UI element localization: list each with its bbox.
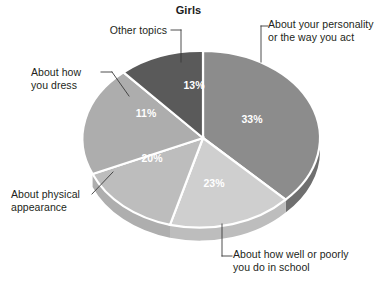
pie-value-other: 13%	[183, 79, 205, 91]
callout-label-personality: About your personality or the way you ac…	[268, 18, 379, 44]
pie-value-personality: 33%	[241, 113, 263, 125]
callout-label-other-topics: Other topics	[85, 24, 167, 37]
callout-label-dress: About how you dress	[31, 66, 105, 92]
callout-label-physical-appearance: About physical appearance	[11, 188, 101, 214]
callout-label-school: About how well or poorly you do in schoo…	[233, 248, 375, 274]
pie-value-school: 23%	[203, 177, 225, 189]
pie-value-dress: 11%	[136, 107, 157, 119]
pie-slices	[82, 51, 320, 228]
pie-value-physical: 20%	[141, 152, 163, 164]
chart-root: Girls	[0, 0, 379, 286]
